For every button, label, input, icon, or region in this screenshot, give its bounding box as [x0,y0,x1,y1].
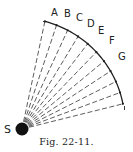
point-label-g: G [118,52,126,62]
source-dot [16,123,29,136]
point-label-e: E [98,26,104,36]
source-label: S [4,124,11,135]
point-label-b: B [64,9,71,19]
radiation-fan-diagram [0,0,133,152]
point-label-d: D [87,19,95,29]
arc-points [44,20,124,105]
point-label-c: C [76,13,83,23]
point-label-a: A [51,8,58,18]
figure-caption: Fig. 22-11. [0,136,133,147]
wavefront-arc [45,21,123,103]
dashed-rays [22,21,123,129]
point-label-f: F [109,36,115,46]
